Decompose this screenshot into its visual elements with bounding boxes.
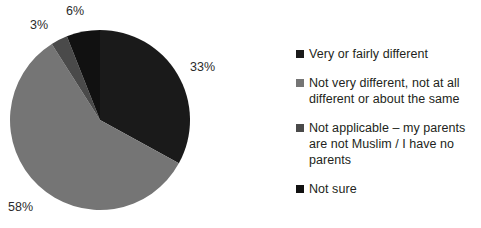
legend-label: Not sure	[309, 181, 357, 197]
legend-swatch-not-very-different	[296, 79, 304, 87]
pie-chart-graphic	[0, 0, 250, 228]
legend-item-very-or-fairly-different[interactable]: Very or fairly different	[296, 46, 481, 62]
pie-chart: 33% 58% 3% 6%	[0, 0, 250, 228]
legend-label: Not very different, not at all different…	[309, 75, 481, 107]
legend-item-not-applicable[interactable]: Not applicable – my parents are not Musl…	[296, 120, 481, 168]
legend-swatch-not-applicable	[296, 124, 304, 132]
pie-label-not-applicable: 3%	[30, 18, 48, 32]
pie-label-very-or-fairly-different: 33%	[190, 60, 215, 74]
legend-swatch-very-or-fairly-different	[296, 50, 304, 58]
pie-label-not-very-different: 58%	[8, 200, 33, 214]
chart-legend: Very or fairly different Not very differ…	[296, 46, 481, 210]
legend-item-not-sure[interactable]: Not sure	[296, 181, 481, 197]
legend-item-not-very-different[interactable]: Not very different, not at all different…	[296, 75, 481, 107]
pie-slices	[10, 30, 190, 210]
legend-label: Very or fairly different	[309, 46, 428, 62]
legend-label: Not applicable – my parents are not Musl…	[309, 120, 481, 168]
pie-label-not-sure: 6%	[66, 4, 84, 18]
legend-swatch-not-sure	[296, 185, 304, 193]
